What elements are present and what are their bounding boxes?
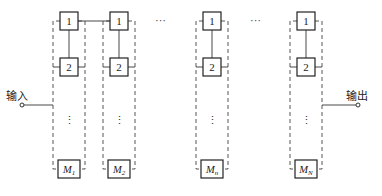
vertical-ellipsis: ⋮ [114, 114, 125, 126]
output-label: 输出 [346, 89, 368, 103]
input-node-icon [20, 103, 24, 107]
vertical-ellipsis: ⋮ [207, 114, 218, 126]
block-label: 2 [303, 61, 309, 73]
dashed-bus-right [128, 21, 135, 169]
column-n: 1 2 ⋮ Mn [196, 12, 228, 178]
column-1: 1 2 ⋮ M1 [53, 12, 85, 178]
dashed-bus-right [221, 21, 228, 169]
block-label: 2 [66, 61, 72, 73]
horizontal-ellipsis-1: ··· [155, 14, 166, 26]
block-label: 1 [209, 15, 215, 27]
dashed-bus-right [315, 21, 322, 169]
output-terminal: 输出 [322, 89, 368, 107]
block-label: 2 [116, 61, 122, 73]
block-label: 1 [303, 15, 309, 27]
dashed-bus-right [78, 21, 85, 169]
diagram-canvas: 输入 输出 ··· ··· 1 2 ⋮ M1 1 2 ⋮ [0, 0, 382, 196]
block-label: 2 [209, 61, 215, 73]
vertical-ellipsis: ⋮ [301, 114, 312, 126]
dashed-bus-left [103, 21, 110, 169]
dashed-bus-left [53, 21, 60, 169]
input-label: 输入 [6, 89, 28, 103]
input-terminal: 输入 [6, 89, 53, 107]
block-label: 1 [66, 15, 72, 27]
column-2: 1 2 ⋮ M2 [103, 12, 135, 178]
dashed-bus-left [290, 21, 297, 169]
block-label: 1 [116, 15, 122, 27]
horizontal-ellipsis-2: ··· [250, 14, 261, 26]
output-node-icon [356, 103, 360, 107]
vertical-ellipsis: ⋮ [64, 114, 75, 126]
dashed-bus-left [196, 21, 203, 169]
column-N: 1 2 ⋮ MN [290, 12, 322, 178]
